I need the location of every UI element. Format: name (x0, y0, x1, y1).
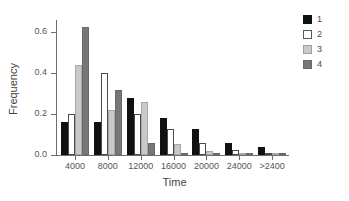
bar-series-3-8000 (108, 110, 115, 155)
x-tick (174, 156, 175, 160)
x-tick (141, 156, 142, 160)
y-axis-title: Frequency (7, 29, 19, 149)
legend-item-2: 2 (303, 30, 322, 39)
bar-series-2-24000 (232, 150, 239, 155)
x-tick-label: 8000 (98, 161, 118, 171)
legend: 1234 (303, 15, 322, 69)
y-tick (51, 32, 56, 33)
bar-series-2-20000 (199, 143, 206, 155)
bar-series-1-24000 (225, 143, 232, 155)
x-tick-label: 4000 (65, 161, 85, 171)
y-tick (51, 114, 56, 115)
bar-series-2-12000 (134, 114, 141, 155)
legend-item-4: 4 (303, 60, 322, 69)
y-tick (51, 155, 56, 156)
legend-swatch-icon (303, 30, 312, 39)
y-tick-label: 0.0 (7, 149, 47, 159)
bar-series-1-12000 (127, 98, 134, 155)
legend-swatch-icon (303, 45, 312, 54)
legend-swatch-icon (303, 60, 312, 69)
x-tick-label: 24000 (227, 161, 252, 171)
x-tick-label: 16000 (161, 161, 186, 171)
bar-series-4-16000 (181, 153, 188, 155)
bar-series-4-4000 (82, 27, 89, 155)
x-tick (206, 156, 207, 160)
bar-series-1->2400 (258, 147, 265, 155)
x-axis-line (56, 155, 289, 156)
legend-swatch-icon (303, 15, 312, 24)
bar-series-1-4000 (61, 122, 68, 155)
x-axis-title: Time (0, 176, 349, 188)
bar-series-2->2400 (265, 153, 272, 155)
x-tick (272, 156, 273, 160)
x-tick (75, 156, 76, 160)
y-tick (51, 73, 56, 74)
bar-series-1-8000 (94, 122, 101, 155)
x-tick (108, 156, 109, 160)
legend-label: 1 (317, 15, 322, 24)
legend-label: 3 (317, 45, 322, 54)
bar-series-4-24000 (246, 153, 253, 155)
chart-figure: 0.00.20.40.6 400080001200016000200002400… (0, 0, 349, 201)
bar-series-4->2400 (279, 153, 286, 155)
bar-series-3-4000 (75, 65, 82, 155)
plot-area (57, 22, 287, 155)
x-tick-label: >2400 (260, 161, 285, 171)
x-tick (239, 156, 240, 160)
bar-series-3-20000 (206, 151, 213, 155)
bar-series-2-16000 (167, 129, 174, 155)
legend-item-3: 3 (303, 45, 322, 54)
legend-item-1: 1 (303, 15, 322, 24)
bar-series-4-12000 (148, 143, 155, 155)
bar-series-1-20000 (192, 129, 199, 155)
bar-series-4-8000 (115, 90, 122, 155)
bar-series-2-4000 (68, 114, 75, 155)
legend-label: 2 (317, 30, 322, 39)
bar-series-3->2400 (272, 153, 279, 155)
bar-series-3-24000 (239, 153, 246, 155)
x-tick-label: 20000 (194, 161, 219, 171)
legend-label: 4 (317, 60, 322, 69)
bar-series-3-16000 (174, 144, 181, 155)
bar-series-4-20000 (213, 153, 220, 155)
bar-series-1-16000 (160, 118, 167, 155)
bar-series-2-8000 (101, 73, 108, 155)
x-tick-label: 12000 (128, 161, 153, 171)
bar-series-3-12000 (141, 102, 148, 155)
